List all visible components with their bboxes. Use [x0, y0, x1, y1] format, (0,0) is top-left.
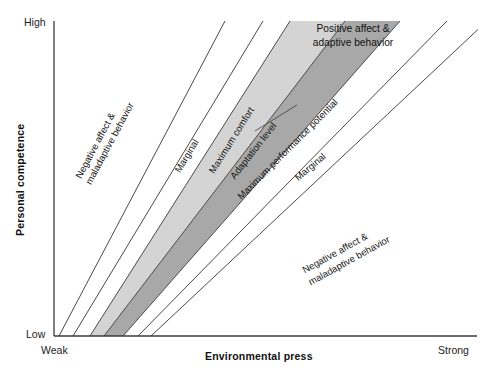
x-axis-tick-strong: Strong [438, 344, 469, 356]
y-axis-title: Personal competence [14, 126, 26, 236]
zone-label-positive-affect-line2: adaptive behavior [287, 36, 419, 50]
plot-area [59, 21, 487, 336]
zone-label-positive-affect: Positive affect & adaptive behavior [287, 22, 419, 49]
x-axis-tick-weak: Weak [41, 344, 68, 356]
y-axis-tick-high: High [24, 16, 46, 28]
x-axis-title: Environmental press [205, 350, 313, 362]
maximum-comfort-band [90, 21, 345, 336]
y-axis-tick-low: Low [26, 328, 45, 340]
ray-adaptation-level [104, 21, 345, 336]
zone-label-positive-affect-line1: Positive affect & [287, 22, 419, 36]
